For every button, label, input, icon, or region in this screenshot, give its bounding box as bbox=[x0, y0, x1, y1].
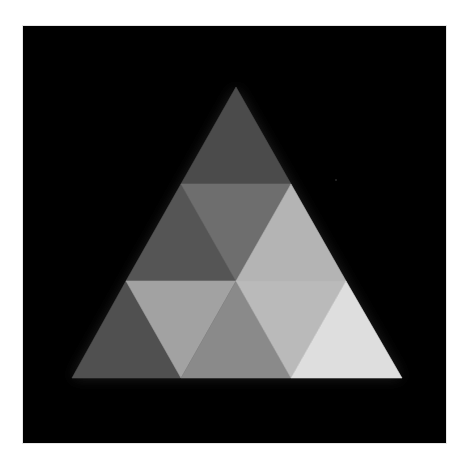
figure-canvas: Subdivided triangle of nine grayscale tr… bbox=[0, 0, 466, 462]
subdivided-triangle bbox=[72, 87, 402, 378]
triangle-r0-up-0 bbox=[181, 87, 291, 184]
speck-artifact bbox=[335, 179, 337, 181]
triangle-diagram bbox=[0, 0, 466, 462]
